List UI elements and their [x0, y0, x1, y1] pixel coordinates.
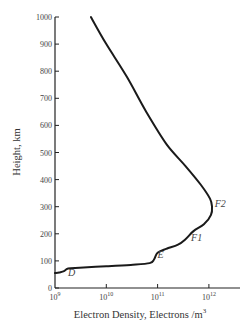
y-tick-label: 700 [40, 94, 52, 103]
x-tick-label: 1012 [202, 291, 216, 302]
layer-label-d: D [67, 267, 76, 278]
y-tick-label: 500 [40, 149, 52, 158]
layer-label-f2: F2 [214, 198, 226, 209]
layer-annotations: DEF1F2 [67, 198, 226, 278]
layer-label-e: E [157, 249, 164, 260]
axes [55, 17, 240, 288]
y-tick-label: 0 [48, 284, 52, 293]
y-tick-label: 600 [40, 121, 52, 130]
x-tick-label: 1011 [151, 291, 165, 302]
y-axis-title: Height, km [11, 128, 22, 175]
y-tick-label: 300 [40, 203, 52, 212]
x-axis-ticks: 109101010111012 [50, 284, 216, 302]
y-tick-label: 800 [40, 67, 52, 76]
y-tick-label: 400 [40, 176, 52, 185]
y-tick-label: 200 [40, 230, 52, 239]
density-profile-curve [55, 17, 212, 273]
layer-label-f1: F1 [190, 232, 202, 243]
y-tick-label: 1000 [36, 13, 52, 22]
y-tick-label: 100 [40, 257, 52, 266]
x-axis-title: Electron Density, Electrons /m3 [74, 307, 207, 320]
y-tick-label: 900 [40, 40, 52, 49]
x-tick-label: 109 [50, 291, 61, 302]
electron-density-chart: 01002003004005006007008009001000 1091010… [0, 0, 252, 325]
x-tick-label: 1010 [99, 291, 113, 302]
